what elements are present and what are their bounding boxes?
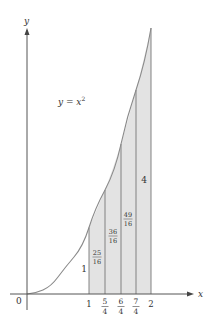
svg-text:5: 5 <box>103 297 108 306</box>
svg-text:4: 4 <box>103 307 108 316</box>
x-tick-labels: 1 5 4 6 4 7 4 2 <box>86 297 153 316</box>
svg-text:6: 6 <box>119 297 124 306</box>
svg-text:1: 1 <box>86 299 91 309</box>
svg-text:25: 25 <box>93 249 101 257</box>
area-under-curve-figure: y x 0 y = x2 1 5 4 6 4 7 4 2 1 25 16 36 … <box>0 0 210 330</box>
y-axis-label: y <box>23 16 30 26</box>
svg-text:36: 36 <box>109 228 117 236</box>
function-label: y = x2 <box>57 95 85 107</box>
x-axis-label: x <box>198 289 203 299</box>
svg-text:49: 49 <box>124 211 132 219</box>
origin-label: 0 <box>16 296 22 306</box>
svg-text:4: 4 <box>134 307 139 316</box>
svg-text:4: 4 <box>141 175 147 185</box>
svg-text:1: 1 <box>81 264 87 274</box>
x-axis-arrow-icon <box>187 292 194 297</box>
svg-text:2: 2 <box>148 299 153 309</box>
y-axis-arrow-icon <box>25 28 30 35</box>
svg-text:16: 16 <box>93 258 101 266</box>
svg-text:16: 16 <box>109 237 117 245</box>
svg-text:4: 4 <box>119 307 124 316</box>
svg-text:7: 7 <box>134 297 139 306</box>
svg-text:16: 16 <box>124 220 132 228</box>
